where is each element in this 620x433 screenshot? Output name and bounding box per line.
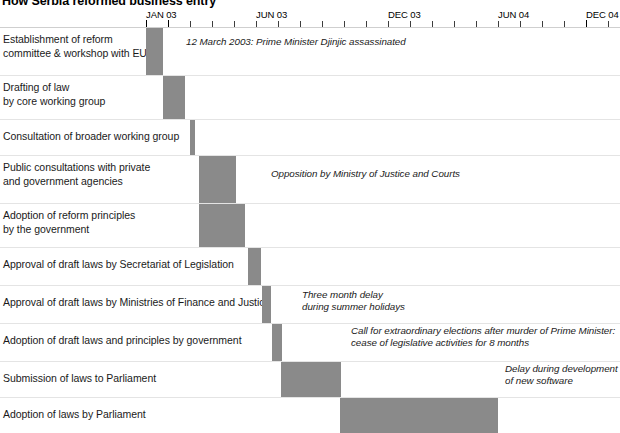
chart-annotation: Delay during development of new software <box>505 363 618 387</box>
task-label: Consultation of broader working group <box>3 130 179 144</box>
gantt-task-bar[interactable] <box>199 204 245 247</box>
axis-tick-label: JUN 03 <box>256 9 287 20</box>
gantt-task-bar[interactable] <box>146 28 163 75</box>
chart-annotation: Three month delay during summer holidays <box>302 289 405 313</box>
gantt-chart: How Serbia reformed business entry JAN 0… <box>0 0 620 433</box>
axis-tick-label: JUN 04 <box>498 9 529 20</box>
gantt-task-bar[interactable] <box>199 156 236 203</box>
chart-annotation: 12 March 2003: Prime Minister Djinjic as… <box>186 36 406 48</box>
task-label: Adoption of reform principles by the gov… <box>3 209 135 236</box>
gantt-task-bar[interactable] <box>190 120 195 155</box>
task-label: Establishment of reform committee & work… <box>3 33 147 60</box>
gantt-task-bar[interactable] <box>340 398 498 433</box>
chart-annotation: Opposition by Ministry of Justice and Co… <box>271 168 460 180</box>
axis-tick-label: DEC 04 <box>586 9 619 20</box>
gantt-task-bar[interactable] <box>248 248 261 285</box>
gantt-task-bar[interactable] <box>281 362 341 397</box>
task-label: Drafting of law by core working group <box>3 81 105 108</box>
gantt-task-row[interactable]: Approval of draft laws by Secretariat of… <box>0 248 620 286</box>
gantt-task-row[interactable]: Drafting of law by core working group <box>0 76 620 120</box>
task-label: Submission of laws to Parliament <box>3 372 156 386</box>
axis-tick-label: JAN 03 <box>146 9 177 20</box>
task-label: Approval of draft laws by Secretariat of… <box>3 258 234 272</box>
task-label: Public consultations with private and go… <box>3 161 150 188</box>
time-axis: JAN 03JUN 03DEC 03JUN 04DEC 04 <box>0 0 620 28</box>
gantt-task-row[interactable]: Adoption of laws by Parliament <box>0 398 620 433</box>
task-label: Adoption of laws by Parliament <box>3 408 146 422</box>
gantt-task-bar[interactable] <box>262 286 271 323</box>
task-label: Approval of draft laws by Ministries of … <box>3 296 270 310</box>
gantt-task-row[interactable]: Consultation of broader working group <box>0 120 620 156</box>
task-label: Adoption of draft laws and principles by… <box>3 334 242 348</box>
gantt-task-bar[interactable] <box>163 76 185 119</box>
gantt-task-bar[interactable] <box>272 324 282 361</box>
chart-annotation: Call for extraordinary elections after m… <box>351 325 615 349</box>
axis-tick-label: DEC 03 <box>388 9 421 20</box>
gantt-task-row[interactable]: Adoption of reform principles by the gov… <box>0 204 620 248</box>
